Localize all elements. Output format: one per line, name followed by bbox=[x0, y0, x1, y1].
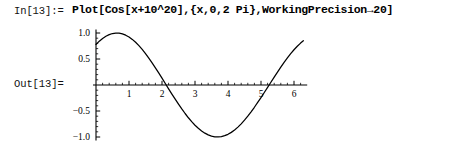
input-cell[interactable]: In[13]:= Plot[Cos[x+10^20],{x,0,2 Pi},Wo… bbox=[0, 0, 474, 24]
x-tick-label: 1 bbox=[127, 89, 132, 99]
cosine-plot-svg: 123456−1.0−0.50.51.0 bbox=[55, 22, 315, 162]
input-expression-text[interactable]: Plot[Cos[x+10^20],{x,0,2 Pi},WorkingPrec… bbox=[72, 3, 393, 16]
x-tick-label: 4 bbox=[226, 89, 231, 99]
y-tick-label: −0.5 bbox=[73, 106, 90, 116]
mathematica-notebook: In[13]:= Plot[Cos[x+10^20],{x,0,2 Pi},Wo… bbox=[0, 0, 474, 162]
x-tick-label: 2 bbox=[160, 89, 165, 99]
x-tick-label: 5 bbox=[259, 89, 264, 99]
x-tick-label: 3 bbox=[193, 89, 198, 99]
output-cell: Out[13]= 123456−1.0−0.50.51.0 bbox=[0, 22, 474, 162]
input-prompt-label: In[13]:= bbox=[14, 5, 64, 17]
x-tick-label: 6 bbox=[292, 89, 297, 99]
plot-graphic[interactable]: 123456−1.0−0.50.51.0 bbox=[55, 22, 315, 162]
y-tick-label: 1.0 bbox=[78, 28, 90, 38]
y-tick-label: −1.0 bbox=[73, 132, 90, 142]
plot-axes-layer bbox=[93, 29, 307, 140]
y-tick-label: 0.5 bbox=[78, 54, 90, 64]
